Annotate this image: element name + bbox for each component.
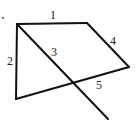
segment-3-label: 3 (51, 45, 57, 59)
segment-3 (17, 24, 108, 119)
marker-dot (2, 17, 4, 19)
segment-2 (16, 24, 17, 99)
segment-4 (87, 23, 129, 67)
geometry-diagram: 1 2 3 4 5 (0, 0, 137, 124)
segment-4-label: 4 (110, 34, 116, 48)
segment-1-label: 1 (50, 8, 56, 22)
segment-2-label: 2 (7, 54, 13, 68)
segment-1 (17, 23, 87, 24)
segment-5-label: 5 (96, 78, 102, 92)
segment-5 (16, 67, 129, 99)
